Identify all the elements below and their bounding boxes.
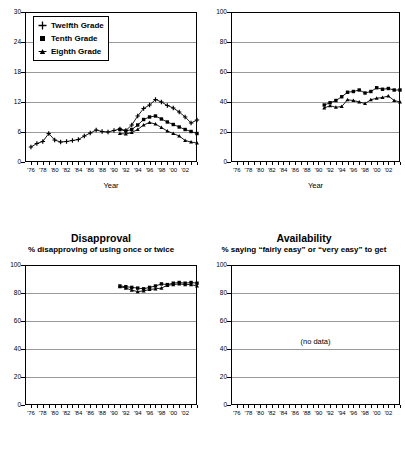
x-axis-tick-mark xyxy=(348,405,349,408)
y-axis-tick-label: 60 xyxy=(207,318,227,325)
x-axis-tick-mark xyxy=(388,405,389,408)
legend-item-twelfth-grade: Twelfth Grade xyxy=(37,19,104,32)
x-axis-tick-mark xyxy=(365,405,366,408)
no-data-note: (no data) xyxy=(231,338,400,346)
y-axis-tick-mark xyxy=(227,377,231,378)
gridline xyxy=(232,349,399,350)
x-axis-tick-mark xyxy=(260,405,261,408)
x-axis-tick-mark xyxy=(243,405,244,408)
x-axis-tick-mark xyxy=(400,405,401,408)
x-axis-tick-mark xyxy=(301,405,302,408)
y-axis-tick-mark xyxy=(227,405,231,406)
cross-marker-icon xyxy=(37,21,48,30)
x-axis-tick-mark xyxy=(383,405,384,408)
panel-disapproval: Disapproval % disapproving of using once… xyxy=(0,232,202,450)
x-axis-tick-mark xyxy=(313,405,314,408)
x-axis-tick-mark xyxy=(237,405,238,408)
x-axis-tick-mark xyxy=(266,405,267,408)
series-layer xyxy=(0,232,202,450)
legend-label-eighth-grade: Eighth Grade xyxy=(51,47,101,56)
plot-area-availability: 020406080100'76'78'80'82'84'86'88'90'92'… xyxy=(203,232,405,450)
y-axis-tick-label: 80 xyxy=(207,290,227,297)
x-axis-label-year-right: Year xyxy=(231,182,400,190)
chart-legend: Twelfth Grade Tenth Grade Eighth Grade xyxy=(33,16,109,61)
y-axis-tick-mark xyxy=(227,349,231,350)
square-marker-icon xyxy=(37,34,48,43)
panel-prevalence-right: 020406080100'76'78'80'82'84'86'88'90'92'… xyxy=(203,0,405,215)
y-axis-tick-mark xyxy=(227,265,231,266)
x-axis-tick-mark xyxy=(371,405,372,408)
y-axis-tick-label: 20 xyxy=(207,374,227,381)
gridline xyxy=(232,293,399,294)
gridline xyxy=(232,377,399,378)
plot-frame xyxy=(231,265,400,405)
x-axis-tick-mark xyxy=(359,405,360,408)
multi-panel-chart-figure: 0612182430'76'78'80'82'84'86'88'90'92'94… xyxy=(0,0,405,450)
y-axis-tick-label: 40 xyxy=(207,346,227,353)
x-axis-label-year-left: Year xyxy=(25,182,197,190)
legend-label-twelfth-grade: Twelfth Grade xyxy=(51,21,104,30)
x-axis-tick-mark xyxy=(272,405,273,408)
legend-item-eighth-grade: Eighth Grade xyxy=(37,45,104,58)
x-axis-tick-mark xyxy=(289,405,290,408)
panel-prevalence-twelfth: 0612182430'76'78'80'82'84'86'88'90'92'94… xyxy=(0,0,202,215)
x-axis-tick-label: '02 xyxy=(379,410,397,416)
x-axis-tick-mark xyxy=(324,405,325,408)
x-axis-tick-mark xyxy=(353,405,354,408)
x-axis-tick-mark xyxy=(394,405,395,408)
y-axis-tick-mark xyxy=(227,321,231,322)
x-axis-tick-mark xyxy=(377,405,378,408)
legend-item-tenth-grade: Tenth Grade xyxy=(37,32,104,45)
y-axis-tick-mark xyxy=(227,293,231,294)
x-axis-tick-mark xyxy=(283,405,284,408)
triangle-marker-icon xyxy=(37,47,48,56)
x-axis-tick-mark xyxy=(330,405,331,408)
x-axis-tick-mark xyxy=(318,405,319,408)
gridline xyxy=(232,321,399,322)
x-axis-tick-mark xyxy=(336,405,337,408)
x-axis-tick-mark xyxy=(248,405,249,408)
y-axis-tick-label: 100 xyxy=(207,262,227,269)
x-axis-tick-mark xyxy=(307,405,308,408)
plot-area-disapproval: 020406080100'76'78'80'82'84'86'88'90'92'… xyxy=(0,232,202,450)
x-axis-tick-mark xyxy=(295,405,296,408)
x-axis-tick-mark xyxy=(278,405,279,408)
legend-label-tenth-grade: Tenth Grade xyxy=(51,34,98,43)
x-axis-tick-mark xyxy=(342,405,343,408)
y-axis-tick-label: 0 xyxy=(207,402,227,409)
x-axis-tick-mark xyxy=(254,405,255,408)
panel-availability: Availability % saying “fairly easy” or “… xyxy=(203,232,405,450)
